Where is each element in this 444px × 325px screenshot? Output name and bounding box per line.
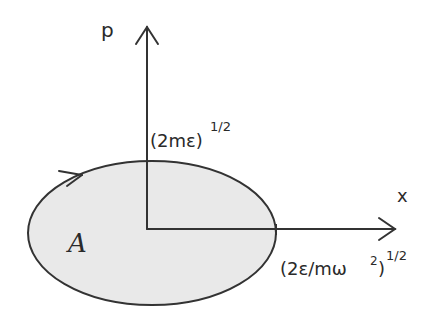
p-intercept-exponent: 1/2: [210, 119, 231, 134]
x-axis-label: x: [397, 185, 408, 206]
x-intercept-exponent: 1/2: [386, 248, 407, 263]
x-intercept-square: 2: [370, 254, 378, 268]
phase-ellipse: [28, 161, 276, 305]
x-intercept-label: (2ε/mω: [280, 258, 347, 279]
p-intercept-label: (2mε): [150, 130, 203, 151]
phase-space-diagram: p x A (2mε) 1/2 (2ε/mω 2 ) 1/2: [0, 0, 444, 325]
area-label: A: [66, 228, 87, 258]
p-axis-label: p: [101, 18, 114, 42]
x-intercept-close-paren: ): [378, 258, 385, 279]
